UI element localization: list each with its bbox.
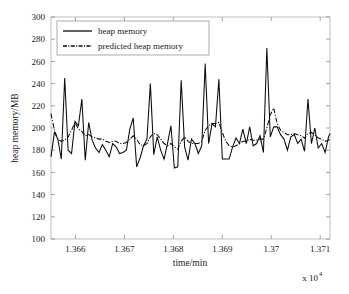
x-axis-tick-labels: 1.3661.3671.3681.3691.371.371 [65,244,330,254]
x-tick-label: 1.371 [310,244,330,254]
chart-plot: 100120140160180200220240260280300 1.3661… [0,0,349,294]
y-tick-label: 160 [32,168,46,178]
y-tick-label: 120 [32,212,46,222]
y-tick-label: 180 [32,145,46,155]
y-tick-label: 260 [32,57,46,67]
x-axis-title: time/min [173,258,208,268]
series-heap-memory [51,48,330,168]
y-tick-label: 200 [32,123,46,133]
x-tick-label: 1.369 [212,244,233,254]
y-tick-label: 280 [32,34,46,44]
y-axis-tick-labels: 100120140160180200220240260280300 [32,12,46,244]
y-tick-label: 220 [32,101,46,111]
y-tick-label: 240 [32,79,46,89]
x-tick-label: 1.368 [163,244,184,254]
x-tick-label: 1.367 [114,244,135,254]
legend: heap memory predicted heap memory [57,21,209,55]
x-axis-multiplier-exponent: 4 [319,270,323,277]
y-axis-title: heap memory/MB [10,93,20,162]
y-tick-label: 300 [32,12,46,22]
y-tick-label: 100 [32,234,46,244]
legend-label-heap-memory: heap memory [98,26,148,36]
figure-canvas: 100120140160180200220240260280300 1.3661… [0,0,349,294]
x-tick-label: 1.366 [65,244,86,254]
x-tick-label: 1.37 [263,244,279,254]
y-tick-label: 140 [32,190,46,200]
x-axis-multiplier: x 10 [302,273,318,283]
legend-label-predicted-heap-memory: predicted heap memory [98,41,183,51]
